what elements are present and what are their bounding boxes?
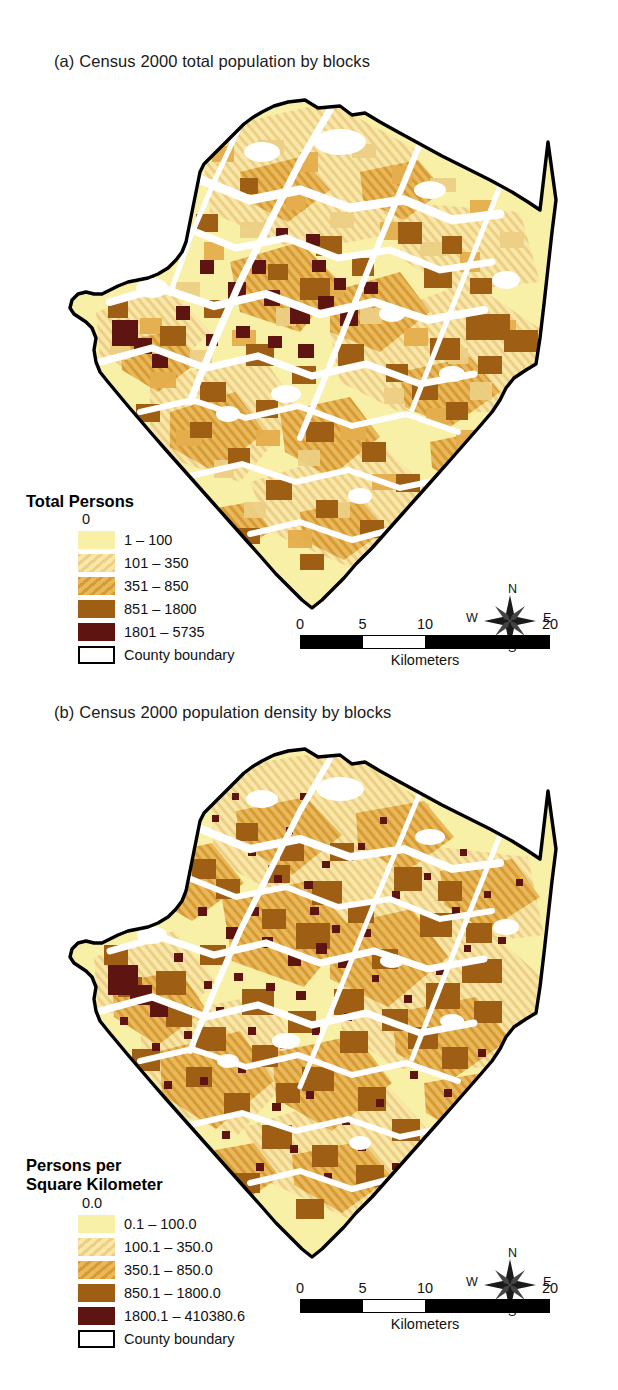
panel-a-title: (a) Census 2000 total population by bloc… bbox=[54, 52, 370, 71]
legend-a-swatch-5 bbox=[78, 623, 115, 641]
legend-a-boundary-swatch bbox=[78, 646, 115, 664]
legend-a-label-5: 1801 – 5735 bbox=[124, 624, 205, 640]
scale-a-ticks: 0 5 10 20 bbox=[300, 616, 550, 635]
legend-a: Total Persons 0 1 – 100 101 – 350 351 – … bbox=[26, 492, 234, 667]
legend-b-class-2: 100.1 – 350.0 bbox=[26, 1236, 245, 1258]
legend-a-label-3: 351 – 850 bbox=[124, 578, 189, 594]
legend-a-boundary-label: County boundary bbox=[124, 647, 234, 663]
legend-a-class-2: 101 – 350 bbox=[26, 552, 234, 574]
legend-b-class-4: 850.1 – 1800.0 bbox=[26, 1282, 245, 1304]
legend-b-class-1: 0.1 – 100.0 bbox=[26, 1213, 245, 1235]
legend-b-boundary-swatch bbox=[78, 1330, 115, 1348]
legend-b-label-2: 100.1 – 350.0 bbox=[124, 1239, 213, 1255]
legend-a-county-boundary: County boundary bbox=[26, 644, 234, 666]
legend-b-swatch-1 bbox=[78, 1215, 115, 1233]
scale-b-tick-0: 0 bbox=[296, 1280, 304, 1296]
legend-a-swatch-4 bbox=[78, 600, 115, 618]
scale-a-tick-0: 0 bbox=[296, 616, 304, 632]
legend-b-swatch-3 bbox=[78, 1261, 115, 1279]
legend-a-class-4: 851 – 1800 bbox=[26, 598, 234, 620]
map-panel-a: (a) Census 2000 total population by bloc… bbox=[0, 0, 618, 697]
legend-a-swatch-2 bbox=[78, 554, 115, 572]
scale-a-seg-1 bbox=[301, 636, 363, 648]
legend-b-swatch-4 bbox=[78, 1284, 115, 1302]
scale-a-seg-3 bbox=[425, 636, 549, 648]
legend-b-class-5: 1800.1 – 410380.6 bbox=[26, 1305, 245, 1327]
scale-a-unit: Kilometers bbox=[300, 652, 550, 668]
scale-a-bar bbox=[300, 635, 550, 649]
legend-b-label-1: 0.1 – 100.0 bbox=[124, 1216, 197, 1232]
scale-b-bar bbox=[300, 1299, 550, 1313]
scale-b-seg-2 bbox=[363, 1300, 425, 1312]
scale-b-seg-3 bbox=[425, 1300, 549, 1312]
legend-b-zero: 0.0 bbox=[82, 1195, 245, 1211]
scale-bar-b: 0 5 10 20 Kilometers bbox=[300, 1280, 550, 1332]
scale-a-tick-10: 10 bbox=[417, 616, 433, 632]
legend-a-class-3: 351 – 850 bbox=[26, 575, 234, 597]
legend-a-title: Total Persons bbox=[26, 492, 234, 510]
legend-a-class-5: 1801 – 5735 bbox=[26, 621, 234, 643]
legend-b-boundary-label: County boundary bbox=[124, 1331, 234, 1347]
legend-b-class-3: 350.1 – 850.0 bbox=[26, 1259, 245, 1281]
legend-b-title-line1: Persons per bbox=[26, 1156, 245, 1174]
scale-a-tick-5: 5 bbox=[358, 616, 366, 632]
scale-a-tick-20: 20 bbox=[542, 616, 558, 632]
scale-b-seg-1 bbox=[301, 1300, 363, 1312]
legend-b-swatch-2 bbox=[78, 1238, 115, 1256]
legend-b-label-5: 1800.1 – 410380.6 bbox=[124, 1308, 245, 1324]
legend-a-zero: 0 bbox=[82, 511, 234, 527]
legend-b-swatch-5 bbox=[78, 1307, 115, 1325]
scale-b-tick-5: 5 bbox=[358, 1280, 366, 1296]
legend-b-county-boundary: County boundary bbox=[26, 1328, 245, 1350]
panel-b-title: (b) Census 2000 population density by bl… bbox=[54, 703, 391, 722]
scale-b-ticks: 0 5 10 20 bbox=[300, 1280, 550, 1299]
legend-a-swatch-3 bbox=[78, 577, 115, 595]
scale-b-tick-20: 20 bbox=[542, 1280, 558, 1296]
scale-b-unit: Kilometers bbox=[300, 1316, 550, 1332]
scale-a-seg-2 bbox=[363, 636, 425, 648]
legend-b-label-3: 350.1 – 850.0 bbox=[124, 1262, 213, 1278]
compass-a-north: N bbox=[508, 582, 517, 596]
legend-a-swatch-1 bbox=[78, 531, 115, 549]
legend-a-class-1: 1 – 100 bbox=[26, 529, 234, 551]
map-panel-b: (b) Census 2000 population density by bl… bbox=[0, 697, 618, 1390]
legend-b-label-4: 850.1 – 1800.0 bbox=[124, 1285, 221, 1301]
legend-b: Persons per Square Kilometer 0.0 0.1 – 1… bbox=[26, 1156, 245, 1351]
compass-b-north: N bbox=[508, 1246, 517, 1260]
legend-a-label-1: 1 – 100 bbox=[124, 532, 172, 548]
legend-a-label-2: 101 – 350 bbox=[124, 555, 189, 571]
scale-b-tick-10: 10 bbox=[417, 1280, 433, 1296]
scale-bar-a: 0 5 10 20 Kilometers bbox=[300, 616, 550, 668]
legend-b-title-line2: Square Kilometer bbox=[26, 1175, 245, 1193]
legend-a-label-4: 851 – 1800 bbox=[124, 601, 197, 617]
